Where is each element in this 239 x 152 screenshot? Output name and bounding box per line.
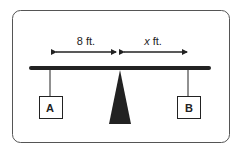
left-distance-label: 8 ft. [77,35,95,47]
weight-b-label: B [185,102,193,114]
seesaw-diagram: 8 ft. x ft. A B [0,0,239,152]
right-distance-label: x ft. [143,35,162,47]
weight-a-label: A [46,102,54,114]
